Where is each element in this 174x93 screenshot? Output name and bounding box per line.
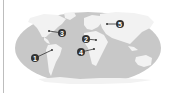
marker-4-point: [93, 48, 95, 50]
marker-1-label: 1: [33, 55, 37, 62]
marker-3-label: 3: [60, 30, 64, 37]
marker-5-label: 5: [118, 21, 122, 28]
marker-2-label: 2: [84, 36, 88, 43]
marker-4-label: 4: [79, 49, 83, 56]
world-map: 1 2 3 4 5: [0, 0, 174, 93]
marker-1-point: [51, 49, 53, 51]
marker-5-point: [106, 23, 108, 25]
marker-3-point: [48, 30, 50, 32]
marker-2-point: [95, 39, 97, 41]
